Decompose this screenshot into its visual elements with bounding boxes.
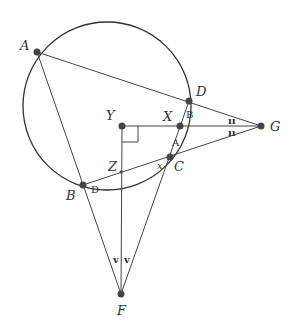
- segment-FD: [121, 101, 189, 294]
- label-X: X: [162, 109, 173, 124]
- angle-label-A: A: [171, 137, 180, 148]
- point-Y: [119, 123, 126, 130]
- label-D: D: [195, 84, 207, 99]
- label-B: B: [65, 188, 76, 203]
- circle: [23, 22, 191, 190]
- point-A: [34, 49, 41, 56]
- label-Y: Y: [106, 108, 116, 123]
- geometry-diagram: A D X Y G C Z B F B A x D ıı ıı v v: [0, 0, 294, 327]
- label-Z: Z: [107, 159, 118, 174]
- point-B: [80, 182, 87, 189]
- point-D: [186, 98, 193, 105]
- angle-tick-F-right: v: [123, 254, 131, 265]
- angle-label-B: B: [186, 109, 193, 120]
- angle-tick-F-left: v: [112, 254, 120, 265]
- label-C: C: [174, 159, 184, 174]
- point-Z: [120, 171, 123, 174]
- label-A: A: [19, 38, 29, 53]
- label-G: G: [270, 119, 280, 134]
- angle-label-D: D: [91, 184, 99, 195]
- point-C: [167, 154, 174, 161]
- label-F: F: [116, 303, 127, 318]
- angle-tick-G-upper: ıı: [228, 115, 236, 126]
- point-F: [118, 291, 125, 298]
- angle-tick-G-lower: ıı: [228, 127, 236, 138]
- angle-label-x: x: [157, 160, 163, 171]
- point-G: [258, 123, 265, 130]
- segment-YF: [121, 126, 122, 294]
- point-X: [177, 123, 184, 130]
